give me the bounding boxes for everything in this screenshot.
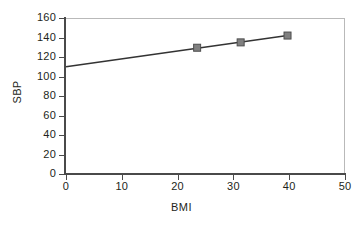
data-point-marker-2 (284, 32, 291, 39)
y-axis-title: SBP (11, 62, 23, 122)
data-point-marker-1 (237, 39, 244, 46)
series-line-0 (66, 36, 288, 67)
data-point-marker-0 (194, 44, 201, 51)
x-axis-title: BMI (0, 201, 363, 213)
chart-container: 020406080100120140160 01020304050 BMI SB… (0, 0, 363, 225)
data-series-layer (0, 0, 363, 225)
